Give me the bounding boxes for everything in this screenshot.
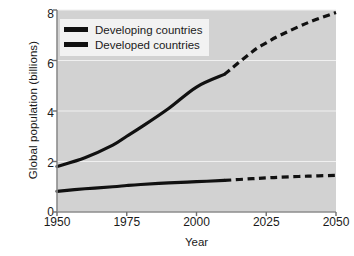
legend-swatch-icon <box>64 42 88 47</box>
chart-legend: Developing countries Developed countries <box>60 19 209 56</box>
legend-item-label: Developing countries <box>95 24 202 36</box>
legend-swatch-icon <box>64 27 88 32</box>
legend-item-developing: Developing countries <box>64 22 202 37</box>
legend-item-label: Developed countries <box>95 39 200 51</box>
legend-item-developed: Developed countries <box>64 37 202 52</box>
